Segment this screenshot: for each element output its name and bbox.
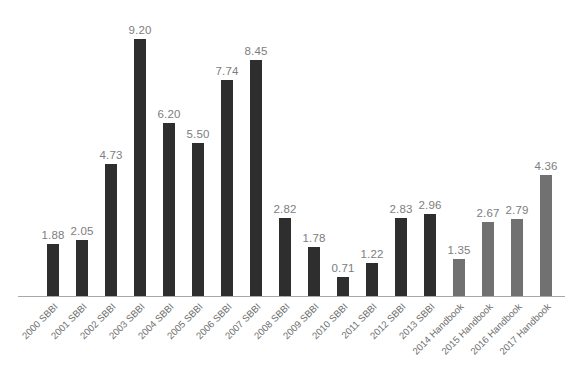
bar-group: 1.22	[357, 0, 386, 297]
category-tick: 2004 SBBI	[154, 297, 183, 391]
bar[interactable]	[134, 39, 146, 297]
bar-group: 2.82	[270, 0, 299, 297]
bar-value-label: 4.36	[522, 160, 570, 172]
bar-group: 2.79	[502, 0, 531, 297]
category-tick: 2009 SBBI	[299, 297, 328, 391]
category-tick: 2010 SBBI	[328, 297, 357, 391]
category-tick: 2003 SBBI	[125, 297, 154, 391]
bar-group: 4.73	[96, 0, 125, 297]
category-tick: 2000 SBBI	[38, 297, 67, 391]
category-tick: 2007 SBBI	[241, 297, 270, 391]
bar-group: 2.67	[473, 0, 502, 297]
plot-area: 1.882.054.739.206.205.507.748.452.821.78…	[0, 0, 578, 297]
category-tick: 2012 SBBI	[386, 297, 415, 391]
category-tick: 2001 SBBI	[67, 297, 96, 391]
category-tick: 2002 SBBI	[96, 297, 125, 391]
bar-group: 2.83	[386, 0, 415, 297]
category-tick: 2005 SBBI	[183, 297, 212, 391]
bar-group: 8.45	[241, 0, 270, 297]
category-tick: 2017 Handbook	[531, 297, 560, 391]
bar-group: 6.20	[154, 0, 183, 297]
bar-chart: 1.882.054.739.206.205.507.748.452.821.78…	[0, 0, 578, 391]
bar-group: 4.36	[531, 0, 560, 297]
bar-group: 1.35	[444, 0, 473, 297]
bar[interactable]	[250, 60, 262, 297]
category-tick: 2008 SBBI	[270, 297, 299, 391]
bar[interactable]	[221, 80, 233, 297]
category-tick: 2011 SBBI	[357, 297, 386, 391]
category-axis: 2000 SBBI2001 SBBI2002 SBBI2003 SBBI2004…	[0, 297, 578, 391]
bar[interactable]	[47, 244, 59, 297]
category-tick: 2006 SBBI	[212, 297, 241, 391]
bar-group: 1.88	[38, 0, 67, 297]
bar-group: 9.20	[125, 0, 154, 297]
bar-group: 1.78	[299, 0, 328, 297]
bar-group: 5.50	[183, 0, 212, 297]
